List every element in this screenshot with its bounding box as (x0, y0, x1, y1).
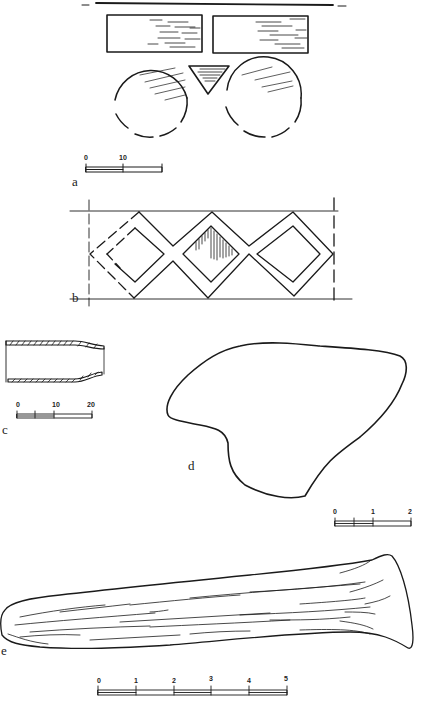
scale-bar-a: 0 10 (84, 154, 162, 172)
scale-tick-label: 2 (172, 677, 176, 684)
panel-label-c: c (2, 422, 8, 437)
panel-label-b: b (72, 290, 79, 305)
scale-tick-label: 0 (333, 508, 337, 515)
top-edge-line (96, 3, 333, 5)
scale-tick-label: 20 (87, 401, 95, 408)
scale-bar-c: 0 10 20 (16, 401, 95, 418)
scale-tick-label: 3 (209, 675, 213, 682)
hatching-right (256, 19, 307, 48)
archaeological-plate: 0 10 a b (0, 0, 421, 705)
disc-left (115, 68, 187, 137)
scale-bar-e: 0 1 2 3 4 5 (97, 675, 288, 695)
scale-tick-label: 1 (371, 508, 375, 515)
scale-tick-label: 0 (84, 154, 88, 161)
panel-e: e 0 1 2 3 4 5 (1, 555, 413, 695)
panel-a: 0 10 a (72, 3, 346, 189)
panel-b: b (70, 198, 352, 306)
panel-label-d: d (188, 458, 195, 473)
scale-tick-label: 10 (119, 154, 127, 161)
scale-bar-d: 0 1 2 (333, 508, 412, 526)
triangle-inlay (189, 66, 229, 94)
scale-tick-label: 1 (134, 677, 138, 684)
scale-tick-label: 0 (97, 677, 101, 684)
scale-tick-label: 4 (247, 677, 251, 684)
panel-d: d 0 1 2 (167, 343, 412, 526)
scale-tick-label: 2 (408, 508, 412, 515)
hatching-left (148, 20, 200, 47)
disc-right (226, 57, 301, 137)
plate-rect-left (107, 15, 202, 52)
scale-tick-label: 0 (16, 401, 20, 408)
scale-tick-label: 10 (52, 401, 60, 408)
panel-c: 0 10 20 c (2, 341, 104, 437)
hatching-diamond (196, 228, 232, 260)
scale-tick-label: 5 (284, 675, 288, 682)
grain-lines (8, 561, 390, 644)
section-hatch (10, 341, 98, 382)
panel-label-e: e (1, 643, 7, 658)
plate-rect-right (213, 16, 308, 53)
panel-label-a: a (72, 174, 78, 189)
